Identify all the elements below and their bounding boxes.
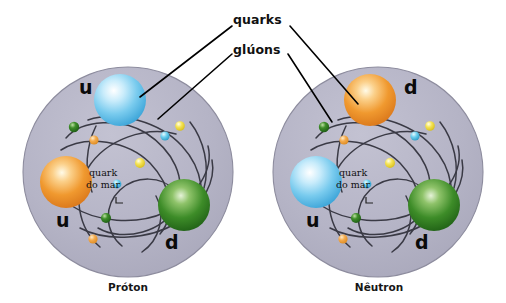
neutron-sea-quark-yellow-upper [425,121,435,131]
neutron-sea-quark-label-line1: quark [339,168,367,178]
neutron-sea-quark-cyan-upper [410,131,419,140]
proton-quark-up-blue [94,74,146,126]
neutron-sea-quark-label-line2: do mar [336,180,370,190]
neutron-sea-quark-orange-upper [339,135,348,144]
neutron-quark-down-orange [344,74,396,126]
quark-structure-diagram: quarks glúons u u d quark do mar Próton … [0,0,506,303]
neutron-quark-letter-right: d [415,233,429,252]
proton-sea-quark-orange-lower [88,234,97,243]
proton-quark-up-orange [40,156,92,208]
callout-label-gluons: glúons [233,42,281,57]
proton-sea-quark-yellow-upper [175,121,185,131]
neutron-sea-quark-green-lower [351,213,361,223]
neutron-quark-up-blue [290,156,342,208]
proton-caption: Próton [98,281,158,293]
neutron-sea-quark-yellow-mid [385,158,395,168]
proton-sea-quark-label-line1: quark [89,168,117,178]
proton-sea-quark-green-lower [101,213,111,223]
proton-sea-quark-label-line2: do mar [86,180,120,190]
proton-sea-quark-green-upper [69,122,79,132]
proton-quark-down-green [158,179,210,231]
neutron-sea-quark-orange-lower [338,234,347,243]
proton-sea-quark-yellow-mid [135,158,145,168]
callout-label-quarks: quarks [233,12,282,27]
neutron-quark-down-green [408,179,460,231]
neutron-quark-letter-left: u [306,211,320,230]
proton-quark-letter-top: u [79,78,93,97]
proton-quark-letter-right: d [165,233,179,252]
proton-sea-quark-cyan-upper [160,131,169,140]
neutron-sea-quark-green-upper [319,122,329,132]
neutron-quark-letter-top: d [404,78,418,97]
proton-group [23,67,233,277]
proton-quark-letter-left: u [56,211,70,230]
neutron-caption: Nêutron [348,281,410,293]
proton-sea-quark-orange-upper [89,135,98,144]
neutron-group [273,67,483,277]
